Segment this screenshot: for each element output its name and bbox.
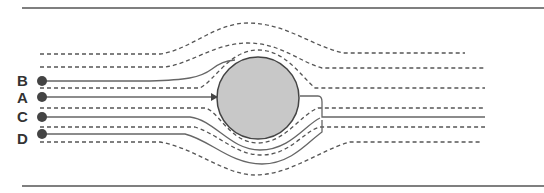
dot-A: [37, 92, 47, 102]
flow-diagram: [0, 0, 544, 193]
label-C: C: [17, 109, 28, 124]
label-A: A: [17, 90, 28, 105]
label-B: B: [17, 73, 28, 88]
dashed-streamline-1: [40, 23, 465, 54]
dashed-streamline-6: [40, 142, 480, 175]
dot-D: [37, 129, 47, 139]
cylinder: [217, 57, 299, 139]
label-D: D: [17, 131, 28, 146]
dot-C: [37, 112, 47, 122]
dot-B: [37, 76, 47, 86]
streamline-B: [42, 60, 235, 81]
streamline-A-wake: [300, 96, 485, 117]
diagram-frame: B A C D: [0, 0, 544, 193]
